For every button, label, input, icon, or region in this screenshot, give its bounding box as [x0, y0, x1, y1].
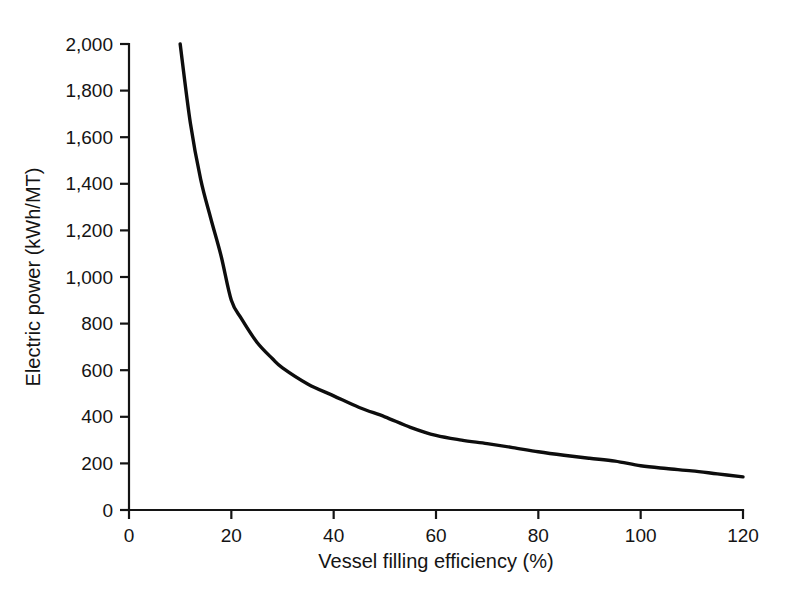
x-axis-tick-label: 80: [528, 525, 549, 546]
y-axis-title: Electric power (kWh/MT): [22, 168, 44, 387]
y-axis-tick-label: 800: [81, 313, 113, 334]
y-axis-tick-label: 1,600: [65, 127, 113, 148]
x-axis-tick-label: 120: [727, 525, 759, 546]
y-axis-tick-label: 1,400: [65, 173, 113, 194]
x-axis-tick-label: 0: [124, 525, 135, 546]
chart-canvas: 02004006008001,0001,2001,4001,6001,8002,…: [0, 0, 792, 601]
y-axis-tick-label: 2,000: [65, 34, 113, 55]
chart-figure: 02004006008001,0001,2001,4001,6001,8002,…: [0, 0, 792, 601]
y-axis-tick-label: 200: [81, 453, 113, 474]
y-axis-tick-label: 400: [81, 406, 113, 427]
x-axis-title: Vessel filling efficiency (%): [318, 550, 553, 572]
x-axis-tick-label: 20: [221, 525, 242, 546]
y-axis-tick-label: 1,000: [65, 267, 113, 288]
y-axis-tick-label: 600: [81, 360, 113, 381]
y-axis-tick-label: 1,200: [65, 220, 113, 241]
x-axis-tick-label: 100: [625, 525, 657, 546]
x-axis-tick-label: 60: [425, 525, 446, 546]
y-axis-tick-label: 0: [102, 500, 113, 521]
x-axis-tick-label: 40: [323, 525, 344, 546]
y-axis-tick-label: 1,800: [65, 80, 113, 101]
